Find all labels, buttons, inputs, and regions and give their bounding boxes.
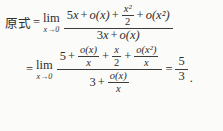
- little-o-of-x: o(x): [110, 70, 127, 82]
- inner-fraction-denominator: x: [134, 56, 158, 69]
- number-3: 3: [178, 70, 184, 84]
- inner-fraction-numerator: o(x²): [134, 44, 158, 56]
- little-o-of-x-squared: o(x²): [136, 44, 156, 56]
- fraction-ox2-over-x: o(x²) x: [134, 44, 158, 69]
- variable-x: x: [144, 57, 149, 69]
- limit-operator: lim x→0: [43, 12, 60, 34]
- equals-sign: =: [24, 62, 35, 77]
- fraction-step2-denominator: 3 + o(x) x: [57, 69, 163, 95]
- plus-sign: +: [96, 76, 107, 90]
- fraction-x-squared-over-2: x² 2: [122, 3, 134, 28]
- number-2: 2: [114, 57, 119, 69]
- inner-fraction-denominator: x: [108, 82, 129, 95]
- fraction-result-five-thirds: 5 3: [175, 55, 187, 84]
- result-numerator: 5: [175, 55, 187, 69]
- variable-x: x: [116, 83, 121, 95]
- number-5: 5: [178, 55, 184, 69]
- fraction-step1: 5 x + o(x) + x² 2 + o(x²) 3 x + o(x): [64, 3, 173, 43]
- plus-sign: +: [79, 9, 90, 23]
- little-o-of-x: o(x): [120, 29, 140, 43]
- equals-sign: =: [163, 62, 174, 77]
- number-2: 2: [125, 16, 130, 28]
- fraction-step1-numerator: 5 x + o(x) + x² 2 + o(x²): [64, 3, 173, 28]
- plus-sign: +: [66, 50, 77, 64]
- fraction-step2-numerator: 5 + o(x) x + x 2 +: [57, 44, 163, 69]
- variable-x: x: [86, 57, 91, 69]
- limit-word: lim: [43, 12, 60, 25]
- fraction-ox-over-x: o(x) x: [108, 70, 129, 95]
- plus-sign: +: [110, 9, 121, 23]
- inner-fraction-numerator: o(x): [78, 44, 99, 56]
- little-o-of-x-squared: o(x²): [146, 9, 170, 23]
- result-denominator: 3: [175, 69, 187, 84]
- limit-word: lim: [36, 59, 53, 72]
- plus-sign: +: [135, 9, 146, 23]
- variable-x: x: [114, 44, 119, 56]
- plus-sign: +: [100, 50, 111, 64]
- equals-sign: =: [31, 15, 42, 30]
- x-squared: x²: [124, 3, 132, 15]
- little-o-of-x: o(x): [90, 9, 110, 23]
- inner-fraction-denominator: 2: [122, 15, 134, 28]
- inner-fraction-numerator: o(x): [108, 70, 129, 82]
- equation-line-1: 原式 = lim x→0 5 x + o(x) + x² 2 + o(x²) 3…: [0, 0, 223, 43]
- plus-sign: +: [108, 29, 119, 43]
- fraction-x-over-2: x 2: [112, 44, 121, 69]
- fraction-ox-over-x: o(x) x: [78, 44, 99, 69]
- period: .: [190, 71, 193, 86]
- limit-subscript: x→0: [37, 73, 53, 81]
- fraction-step2: 5 + o(x) x + x 2 +: [57, 44, 163, 95]
- limit-operator: lim x→0: [36, 59, 53, 81]
- inner-fraction-numerator: x: [112, 44, 121, 56]
- equation-line-2: = lim x→0 5 + o(x) x + x 2: [0, 43, 223, 95]
- limit-subscript: x→0: [44, 26, 60, 34]
- inner-fraction-denominator: 2: [112, 56, 121, 69]
- little-o-of-x: o(x): [80, 44, 97, 56]
- original-expression-label: 原式: [5, 13, 31, 32]
- plus-sign: +: [122, 50, 133, 64]
- inner-fraction-denominator: x: [78, 56, 99, 69]
- fraction-step1-denominator: 3 x + o(x): [64, 28, 173, 43]
- inner-fraction-numerator: x²: [122, 3, 134, 15]
